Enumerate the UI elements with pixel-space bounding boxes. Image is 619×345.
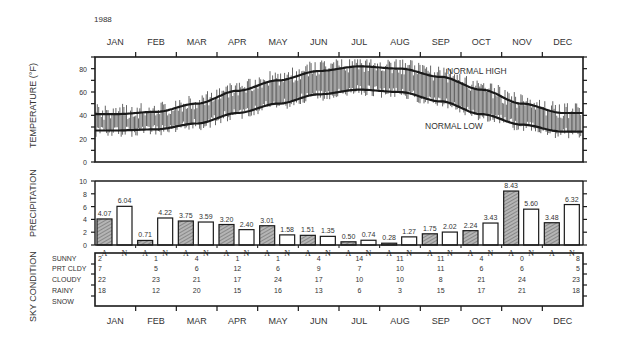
sky-value: 21 [193,276,201,283]
month-label-top: MAR [187,37,208,47]
normal-precip-bar [198,222,213,245]
sky-value: 22 [98,276,106,283]
temperature-panel: TEMPERATURE (°F) 020406080 NORMAL HIGH N… [28,52,587,166]
month-label-top: AUG [390,37,410,47]
month-label-bottom: MAR [187,316,208,326]
actual-precip-value: 0.28 [382,234,396,241]
sky-table-ticks [91,264,587,311]
actual-precip-bar [300,235,315,245]
svg-text:60: 60 [79,89,87,96]
month-label-top: OCT [472,37,492,47]
precipitation-panel: PRECIPITATION 0246810 4.076.040.714.223.… [28,169,587,258]
svg-text:2: 2 [83,229,87,236]
month-label-bottom: APR [228,316,247,326]
sky-value: 5 [154,265,158,272]
normal-precip-value: 1.58 [280,226,294,233]
normal-precip-bar [402,237,417,245]
sky-value: 17 [315,276,323,283]
sky-value: 6 [195,265,199,272]
month-label-top: MAY [269,37,288,47]
actual-precip-value: 8.43 [504,182,518,189]
normal-precip-value: 6.04 [118,197,132,204]
normal-high-label: NORMAL HIGH [447,66,507,76]
month-label-bottom: NOV [512,316,532,326]
actual-precip-value: 0.50 [342,233,356,240]
sky-value: 11 [396,255,403,262]
normal-precip-value: 3.59 [199,213,213,220]
normal-precip-bar [117,206,132,245]
month-label-bottom: JUN [310,316,328,326]
normal-precip-value: 1.27 [402,228,416,235]
sky-table-frame [95,253,583,306]
normal-precip-bar [564,205,579,245]
month-label-top: FEB [147,37,165,47]
month-label-top: JAN [107,37,124,47]
normal-precip-bar [361,240,376,245]
normal-low-label: NORMAL LOW [425,121,483,131]
sky-value: 12 [233,265,241,272]
svg-text:80: 80 [79,66,87,73]
sky-value: 20 [193,287,201,294]
sky-value: 17 [477,287,485,294]
sky-value: 4 [317,255,321,262]
sky-value: 0 [520,255,524,262]
normal-precip-value: 3.43 [484,214,498,221]
actual-precip-bar [422,234,437,245]
normal-precip-bar [158,218,173,245]
month-label-top: JUL [351,37,367,47]
normal-precip-value: 4.22 [158,209,172,216]
actual-normal-labels: ANANANANANANANANANANANAN [102,245,575,258]
month-label-bottom: DEC [553,316,573,326]
sky-value: 14 [355,255,363,262]
actual-precip-value: 0.71 [138,231,152,238]
sky-value: 8 [439,276,443,283]
svg-text:6: 6 [83,204,87,211]
year-label: 1988 [94,15,112,24]
sky-value: 6 [479,265,483,272]
actual-precip-bar [260,226,275,245]
actual-precip-value: 1.75 [423,225,437,232]
sky-value: 4 [195,255,199,262]
sky-value: 10 [396,276,404,283]
month-label-top: JUN [310,37,328,47]
sky-value: 8 [576,255,580,262]
actual-precip-value: 3.48 [545,214,559,221]
normal-precip-value: 5.60 [524,200,538,207]
month-label-bottom: JUL [351,316,367,326]
sky-value: 24 [274,276,282,283]
sky-value: 1 [235,255,239,262]
svg-text:0: 0 [83,242,87,249]
sky-value: 2 [98,255,102,262]
actual-precip-value: 3.75 [179,212,193,219]
sky-value: 6 [520,265,524,272]
normal-precip-value: 2.02 [443,223,457,230]
sky-row-labels: SUNNYPRT CLDYCLOUDYRAINYSNOW [52,255,87,305]
normal-precip-value: 1.35 [321,227,335,234]
svg-text:20: 20 [79,136,87,143]
actual-precip-bar [504,191,519,245]
actual-precip-value: 3.01 [260,217,274,224]
temperature-axis-title: TEMPERATURE (°F) [28,63,38,148]
month-label-top: NOV [512,37,532,47]
sky-value: 18 [572,287,580,294]
actual-precip-bar [178,221,193,245]
sky-condition-panel: SKY CONDITION SUNNYPRT CLDYCLOUDYRAINYSN… [28,251,587,322]
normal-precip-bar [280,235,295,245]
month-label-bottom: JAN [107,316,124,326]
sky-value: 23 [572,276,580,283]
sky-value: 18 [98,287,106,294]
month-label-top: DEC [553,37,573,47]
sky-row-label: SNOW [52,298,74,305]
normal-precip-bar [320,236,335,245]
sky-value: 10 [355,276,363,283]
actual-precip-value: 1.51 [301,226,315,233]
actual-precip-bar [544,223,559,245]
month-label-top: SEP [432,37,450,47]
normal-precip-value: 6.32 [565,196,579,203]
month-label-bottom: SEP [432,316,450,326]
svg-text:0: 0 [83,159,87,166]
svg-text:40: 40 [79,112,87,119]
month-label-bottom: AUG [390,316,410,326]
sky-value: 1 [154,255,158,262]
normal-precip-value: 2.40 [240,221,254,228]
